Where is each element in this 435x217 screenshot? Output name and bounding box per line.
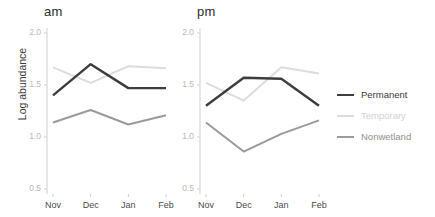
legend-item-temporary[interactable]: Temporary [337,105,411,126]
y-tick-label: 1.0 [21,131,41,141]
x-tick-label: Dec [227,200,261,210]
legend-label-permanent: Permanent [361,89,407,100]
legend-item-nonwetland[interactable]: Nonwetland [337,126,411,147]
x-tick-label: Jan [264,200,298,210]
y-tick-label: 1.5 [174,79,194,89]
chart-figure: am pm Log abundance Permanent Temporary … [0,0,435,217]
x-tick-label: Jan [111,200,145,210]
legend-item-permanent[interactable]: Permanent [337,84,411,105]
y-tick-label: 1.5 [21,79,41,89]
y-tick-label: 1.0 [174,131,194,141]
y-tick-label: 0.5 [174,183,194,193]
chart-legend: Permanent Temporary Nonwetland [337,84,411,147]
legend-swatch-nonwetland [337,136,354,138]
x-tick-label: Feb [302,200,336,210]
legend-label-temporary: Temporary [361,110,406,121]
legend-swatch-temporary [337,115,354,117]
legend-label-nonwetland: Nonwetland [361,131,411,142]
x-tick-label: Feb [149,200,183,210]
x-tick-label: Dec [74,200,108,210]
y-tick-label: 2.0 [21,27,41,37]
x-tick-label: Nov [189,200,223,210]
legend-swatch-permanent [337,94,354,96]
x-tick-label: Nov [36,200,70,210]
y-tick-label: 2.0 [174,27,194,37]
y-tick-label: 0.5 [21,183,41,193]
